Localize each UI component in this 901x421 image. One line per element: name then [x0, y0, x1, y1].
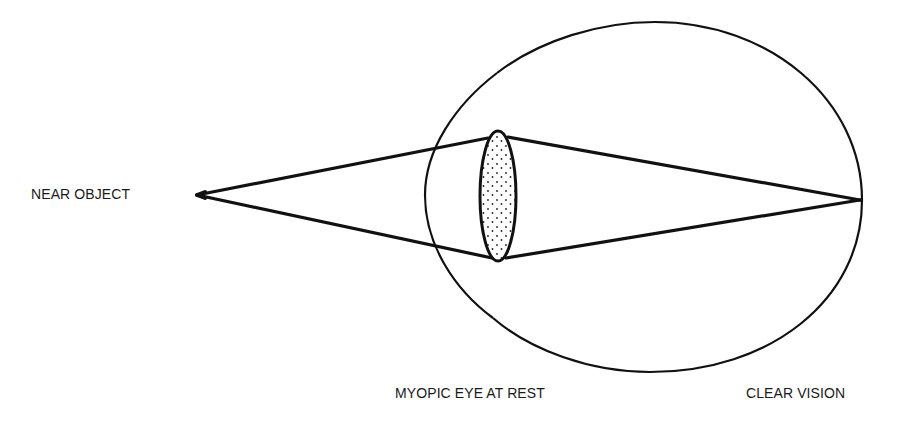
myopia-diagram: NEAR OBJECT MYOPIC EYE AT REST CLEAR VIS…	[0, 0, 901, 421]
eye-state-label: MYOPIC EYE AT REST	[395, 385, 545, 401]
diagram-canvas	[0, 0, 901, 421]
near-object-label: NEAR OBJECT	[31, 186, 130, 202]
incoming-rays	[197, 138, 492, 258]
result-label: CLEAR VISION	[746, 385, 845, 401]
refracted-rays	[506, 137, 860, 258]
focal-point	[858, 198, 861, 201]
lens	[480, 131, 516, 261]
